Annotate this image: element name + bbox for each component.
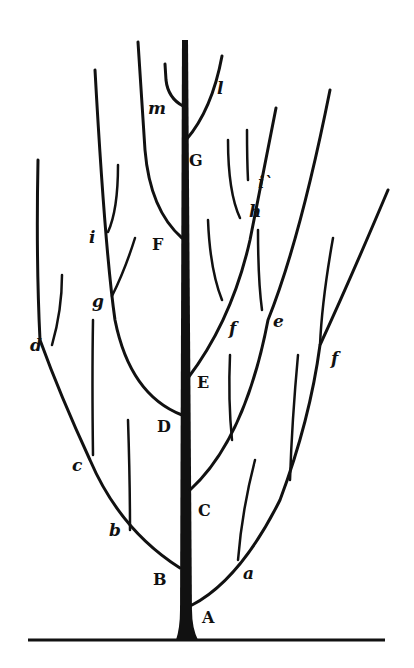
label-A: A bbox=[202, 610, 214, 626]
branch-d-sub bbox=[52, 275, 62, 345]
label-G: G bbox=[189, 153, 203, 169]
branch-l bbox=[186, 56, 222, 140]
branch-c-sub bbox=[93, 320, 94, 455]
label-f-right: f bbox=[331, 350, 338, 367]
label-b: b bbox=[109, 522, 121, 539]
label-g: g bbox=[92, 293, 104, 310]
label-c: c bbox=[72, 457, 82, 474]
branch-C-sub bbox=[229, 355, 232, 440]
branch-b-sub bbox=[128, 420, 130, 530]
branch-f-left-sub bbox=[208, 220, 222, 300]
branch-B-left bbox=[37, 160, 180, 568]
branch-i-right-sub bbox=[247, 130, 248, 180]
label-l: l bbox=[217, 80, 223, 97]
label-a: a bbox=[243, 565, 254, 582]
label-h: h bbox=[249, 203, 261, 220]
label-D: D bbox=[157, 419, 171, 435]
label-d: d bbox=[30, 337, 42, 354]
branch-F-up bbox=[138, 42, 182, 238]
label-E: E bbox=[197, 375, 209, 391]
branch-m bbox=[165, 64, 183, 106]
branch-h-sub bbox=[228, 140, 240, 218]
label-i-right: i` bbox=[258, 174, 273, 191]
label-f-left: f bbox=[229, 320, 236, 337]
label-e: e bbox=[273, 313, 284, 330]
label-B: B bbox=[153, 572, 167, 588]
branch-g-sub bbox=[112, 238, 135, 296]
label-C: C bbox=[198, 503, 211, 519]
trunk bbox=[180, 40, 192, 615]
tree-diagram bbox=[0, 0, 414, 668]
branch-e-sub bbox=[258, 230, 262, 310]
label-F: F bbox=[152, 237, 163, 253]
label-i-left: i bbox=[89, 229, 95, 246]
branch-D-left bbox=[95, 70, 182, 415]
label-m: m bbox=[148, 100, 166, 117]
branch-i-left-sub bbox=[108, 165, 118, 232]
